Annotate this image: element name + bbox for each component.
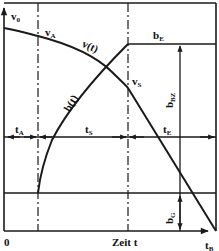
tB-label: tB: [205, 240, 213, 251]
frame: [4, 3, 216, 231]
bE-label: bE: [153, 30, 164, 43]
vS-label: vS: [132, 76, 141, 89]
velocity-curve: [4, 28, 216, 231]
v0-label: v0: [11, 11, 20, 24]
x-axis-label: Zeit t: [112, 237, 137, 248]
diagram-canvas: [0, 0, 219, 251]
tE-label: tE: [163, 124, 171, 137]
deceleration-curve: [38, 44, 128, 193]
vA-label: vA: [45, 27, 56, 40]
origin-label: 0: [4, 237, 10, 248]
tS-label: tS: [85, 124, 93, 137]
tA-label: tA: [15, 124, 24, 137]
bG-label: bG: [164, 212, 177, 224]
bBZ-label: bBZ: [164, 93, 177, 108]
